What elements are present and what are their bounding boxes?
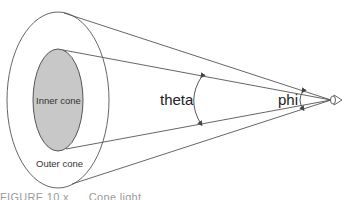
figure-caption-text: Cone light <box>89 192 142 200</box>
light-source-icon <box>331 95 343 105</box>
phi-arc <box>300 91 303 109</box>
cone-light-diagram: Inner cone Outer cone theta phi FIGURE 1… <box>0 0 346 200</box>
phi-label: phi <box>278 91 298 108</box>
theta-label: theta <box>160 91 193 108</box>
theta-arc <box>194 76 202 124</box>
outer-cone-bottom-line <box>72 100 331 184</box>
figure-number: FIGURE 10.x <box>0 192 69 200</box>
outer-cone-label: Outer cone <box>36 158 83 169</box>
figure-caption: FIGURE 10.x Cone light <box>0 192 141 200</box>
inner-cone-label: Inner cone <box>36 95 81 106</box>
